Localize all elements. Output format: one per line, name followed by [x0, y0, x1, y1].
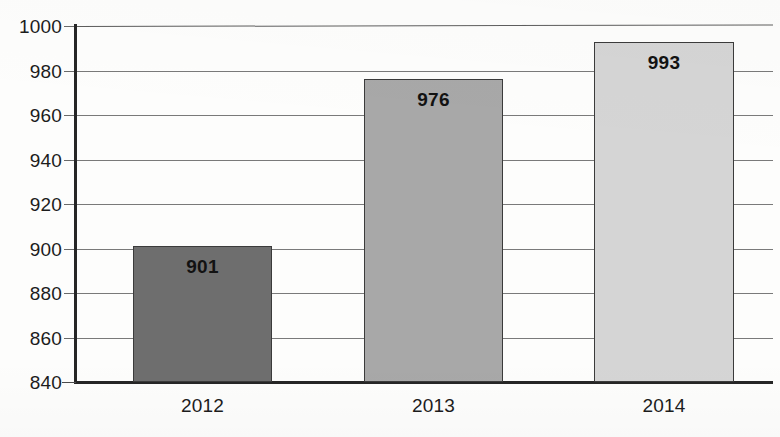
- x-axis-baseline-stub: [62, 382, 76, 383]
- y-tick-label-980: 980: [0, 61, 62, 80]
- y-tick-label-900: 900: [0, 239, 62, 258]
- bar-2012: 901: [133, 246, 272, 382]
- y-tick-label-960: 960: [0, 106, 62, 125]
- bar-2013: 976: [364, 79, 503, 382]
- y-tick-label-880: 880: [0, 284, 62, 303]
- x-tick-label-2012: 2012: [133, 395, 272, 417]
- bar-chart: 1000980960940920900880860840 901976993 2…: [0, 0, 780, 437]
- gridline-1000: [76, 25, 773, 27]
- bar-value-label-2012: 901: [134, 256, 271, 278]
- x-tick-label-2014: 2014: [594, 395, 734, 417]
- bar-value-label-2013: 976: [365, 89, 502, 111]
- y-tick-label-920: 920: [0, 195, 62, 214]
- bar-2014: 993: [594, 42, 734, 382]
- y-tick-label-940: 940: [0, 150, 62, 169]
- y-tick-label-860: 860: [0, 328, 62, 347]
- y-tick-label-1000: 1000: [0, 17, 62, 36]
- y-tick-label-840: 840: [0, 373, 62, 392]
- x-tick-label-2013: 2013: [364, 395, 503, 417]
- bar-value-label-2014: 993: [595, 52, 733, 74]
- y-axis-line: [74, 24, 77, 384]
